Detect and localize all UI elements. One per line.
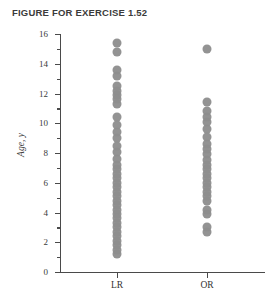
- y-tick-major: [55, 34, 60, 35]
- figure-container: FIGURE FOR EXERCISE 1.52 Age, y 02468101…: [0, 0, 273, 299]
- y-tick-minor: [57, 108, 61, 109]
- data-dot: [113, 113, 122, 122]
- data-dot: [113, 38, 122, 47]
- data-dot: [113, 65, 122, 74]
- y-tick-label: 6: [18, 178, 48, 188]
- y-tick-label: 0: [18, 267, 48, 277]
- x-tick-or: [207, 273, 208, 278]
- data-dot: [203, 205, 212, 214]
- data-dot: [113, 47, 122, 56]
- plot-area: Age, y 0246810121416 LROR: [0, 0, 273, 299]
- y-tick-major: [55, 94, 60, 95]
- y-tick-label: 2: [18, 237, 48, 247]
- x-axis-line: [60, 272, 265, 273]
- x-tick-lr: [117, 273, 118, 278]
- y-tick-minor: [57, 138, 61, 139]
- y-tick-major: [55, 183, 60, 184]
- y-tick-major: [55, 123, 60, 124]
- y-tick-label: 8: [18, 148, 48, 158]
- y-tick-major: [55, 272, 60, 273]
- data-dot: [203, 44, 212, 53]
- y-tick-label: 14: [18, 59, 48, 69]
- y-axis-line: [60, 34, 61, 273]
- y-tick-minor: [57, 49, 61, 50]
- x-tick-label-lr: LR: [87, 280, 147, 290]
- data-dot: [203, 107, 212, 116]
- data-dot: [203, 223, 212, 232]
- y-tick-minor: [57, 257, 61, 258]
- y-tick-label: 10: [18, 118, 48, 128]
- y-tick-label: 16: [18, 29, 48, 39]
- y-tick-major: [55, 153, 60, 154]
- data-dot: [113, 82, 122, 91]
- y-tick-major: [55, 64, 60, 65]
- y-tick-label: 12: [18, 89, 48, 99]
- y-tick-minor: [57, 198, 61, 199]
- y-tick-minor: [57, 227, 61, 228]
- y-tick-minor: [57, 168, 61, 169]
- y-tick-label: 4: [18, 208, 48, 218]
- x-tick-label-or: OR: [177, 280, 237, 290]
- y-tick-major: [55, 242, 60, 243]
- y-tick-minor: [57, 79, 61, 80]
- data-dot: [203, 98, 212, 107]
- y-tick-major: [55, 213, 60, 214]
